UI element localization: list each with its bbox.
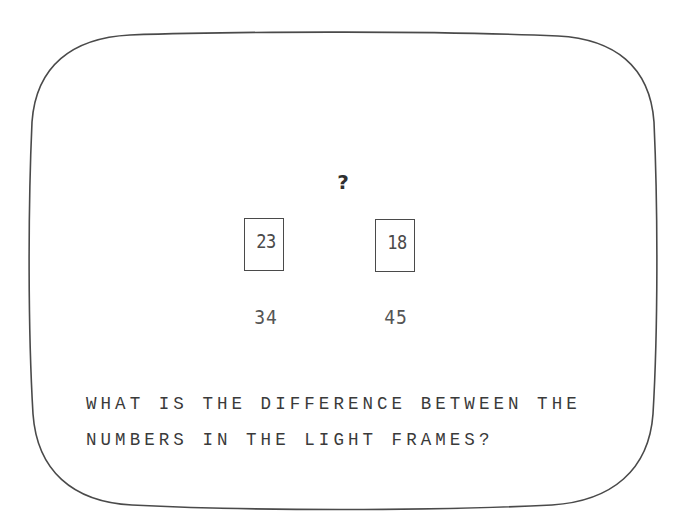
crt-screen: ? 23 18 34 45 WHAT IS THE DIFFERENCE BET…: [0, 0, 686, 531]
light-frame-right-value: 18: [379, 233, 415, 252]
under-frame-numbers-row: 34 45: [0, 306, 686, 336]
question-mark-indicator: ?: [0, 172, 686, 192]
screen-content: ? 23 18 34 45 WHAT IS THE DIFFERENCE BET…: [0, 0, 686, 531]
light-frame-right[interactable]: 18: [375, 219, 415, 272]
prompt-text: WHAT IS THE DIFFERENCE BETWEEN THE NUMBE…: [86, 386, 626, 458]
light-frame-left-value: 23: [248, 232, 284, 251]
under-frame-number-right: 45: [366, 306, 426, 329]
prompt-line-2: NUMBERS IN THE LIGHT FRAMES?: [86, 422, 626, 458]
under-frame-number-left: 34: [236, 306, 296, 329]
prompt-line-1: WHAT IS THE DIFFERENCE BETWEEN THE: [86, 386, 626, 422]
light-frame-left[interactable]: 23: [244, 218, 284, 271]
light-frames-row: 23 18: [0, 218, 686, 274]
